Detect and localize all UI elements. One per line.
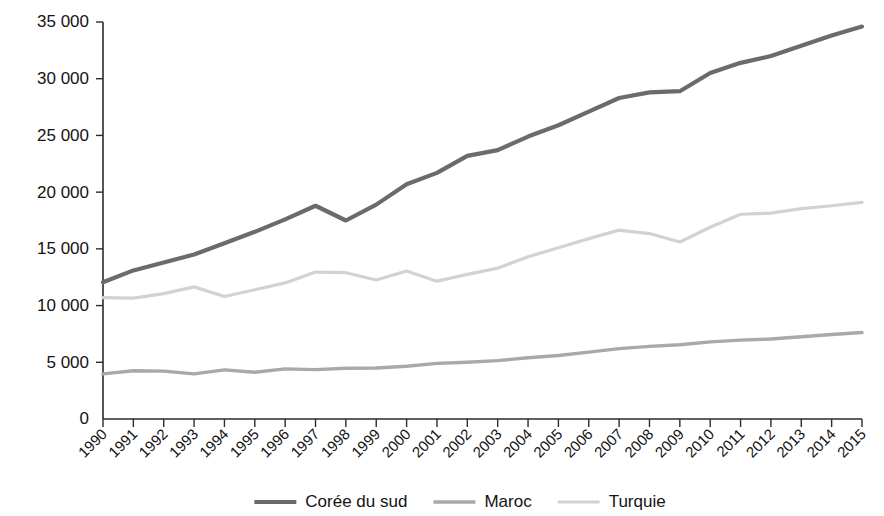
x-tick-label: 1994 (196, 425, 232, 461)
x-tick-label: 2015 (834, 425, 870, 461)
chart-legend: Corée du sudMarocTurquie (254, 492, 665, 511)
x-tick-label: 1991 (105, 425, 141, 461)
y-tick-label: 30 000 (37, 69, 89, 88)
x-tick-label: 2005 (530, 425, 566, 461)
series-line-corée-du-sud (103, 27, 862, 283)
series-line-maroc (103, 333, 862, 374)
x-tick-label: 1996 (257, 425, 293, 461)
x-tick-label: 2008 (621, 425, 657, 461)
x-tick-label: 1990 (75, 425, 111, 461)
x-tick-label: 1993 (166, 425, 202, 461)
x-axis: 1990199119921993199419951996199719981999… (75, 419, 870, 461)
y-tick-label: 35 000 (37, 12, 89, 31)
x-tick-label: 2006 (560, 425, 596, 461)
x-tick-label: 1995 (226, 425, 262, 461)
y-tick-label: 0 (80, 409, 89, 428)
x-tick-label: 2002 (439, 425, 475, 461)
x-tick-label: 2000 (378, 425, 414, 461)
chart-canvas: 05 00010 00015 00020 00025 00030 00035 0… (0, 0, 884, 516)
x-tick-label: 2007 (591, 425, 627, 461)
x-tick-label: 1998 (317, 425, 353, 461)
series-lines (103, 27, 862, 374)
y-tick-label: 20 000 (37, 183, 89, 202)
legend-label-corée-du-sud: Corée du sud (305, 492, 407, 511)
line-chart: 05 00010 00015 00020 00025 00030 00035 0… (0, 0, 884, 516)
x-tick-label: 2013 (773, 425, 809, 461)
y-tick-label: 10 000 (37, 296, 89, 315)
x-tick-label: 2011 (713, 425, 748, 460)
x-tick-label: 1992 (135, 425, 171, 461)
series-line-turquie (103, 202, 862, 298)
x-tick-label: 2009 (651, 425, 687, 461)
y-tick-label: 15 000 (37, 239, 89, 258)
y-tick-label: 5 000 (46, 353, 89, 372)
x-tick-label: 1997 (287, 425, 323, 461)
x-tick-label: 2012 (742, 425, 778, 461)
legend-label-turquie: Turquie (609, 492, 666, 511)
legend-label-maroc: Maroc (484, 492, 532, 511)
x-tick-label: 1999 (348, 425, 384, 461)
x-tick-label: 2003 (469, 425, 505, 461)
x-tick-label: 2014 (803, 425, 839, 461)
y-axis: 05 00010 00015 00020 00025 00030 00035 0… (37, 12, 103, 428)
x-tick-label: 2010 (682, 425, 718, 461)
y-tick-label: 25 000 (37, 126, 89, 145)
x-tick-label: 2004 (500, 425, 536, 461)
x-tick-label: 2001 (408, 425, 444, 461)
